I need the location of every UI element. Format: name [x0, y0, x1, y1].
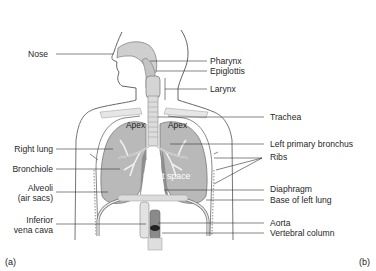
label-pharynx: Pharynx [210, 57, 242, 66]
label-larynx: Larynx [210, 85, 236, 94]
panel-label-b: (b) [359, 257, 370, 267]
label-diaphragm: Diaphragm [270, 185, 312, 194]
label-alveoli-sub: (air sacs) [5, 194, 53, 203]
label-ribs: Ribs [270, 153, 287, 162]
label-trachea: Trachea [270, 113, 301, 122]
vertebral-column-shape [148, 238, 162, 250]
label-vertebral-column: Vertebral column [270, 229, 335, 238]
label-base-of-left-lung: Base of left lung [270, 196, 332, 205]
vena-cava-shape [140, 202, 149, 238]
larynx [146, 76, 160, 98]
label-apex-left: Apex [126, 121, 145, 130]
label-epiglottis: Epiglottis [210, 67, 245, 76]
label-inferior-vena-cava: Inferior [5, 216, 53, 225]
label-bronchiole: Bronchiole [5, 165, 53, 174]
label-left-primary-bronchus: Left primary bronchus [270, 140, 353, 149]
label-heart-space: Heart space [143, 172, 190, 181]
label-aorta: Aorta [270, 219, 291, 228]
label-alveoli: Alveoli [5, 184, 53, 193]
label-nose: Nose [28, 50, 56, 59]
right-lung-shape [101, 122, 146, 204]
panel-label-a: (a) [5, 257, 16, 267]
trachea [148, 96, 158, 146]
label-inferior-vena-cava-sub: vena cava [5, 226, 53, 235]
label-apex-right: Apex [168, 121, 187, 130]
label-right-lung: Right lung [8, 145, 53, 154]
